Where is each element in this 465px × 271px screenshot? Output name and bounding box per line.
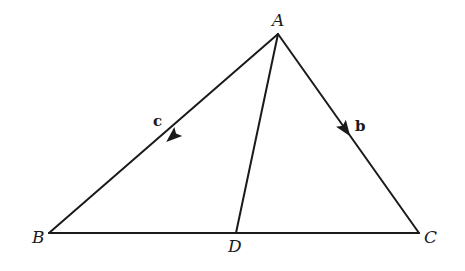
vertex-a-label: A	[270, 10, 284, 30]
arrowhead-c-icon	[162, 127, 182, 147]
vertex-c-label: C	[424, 227, 437, 247]
vector-b-label: b	[355, 117, 366, 135]
vertex-b-label: B	[31, 227, 45, 247]
point-d-label: D	[227, 236, 242, 256]
vector-c-label: c	[153, 112, 162, 130]
triangle-diagram: A B C D c b	[0, 0, 465, 271]
segment-ab	[49, 34, 278, 233]
arrowhead-b-icon	[336, 120, 355, 140]
